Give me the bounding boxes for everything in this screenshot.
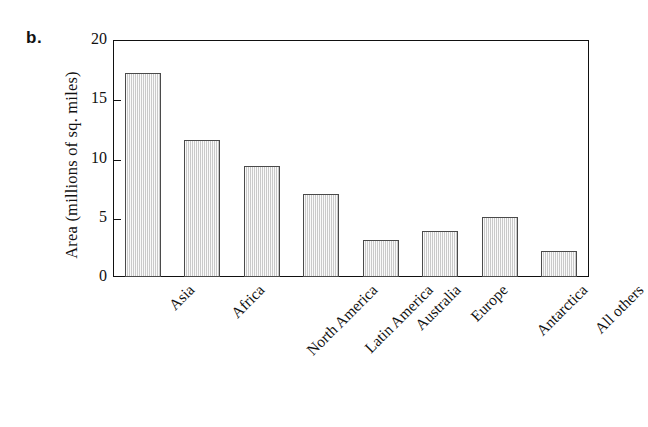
bar: [184, 140, 220, 277]
x-axis-tick-labels: AsiaAfricaNorth AmericaLatin AmericaAust…: [113, 281, 589, 421]
panel-letter-label: b.: [26, 28, 42, 48]
x-tick-label: Antarctica: [533, 281, 591, 339]
bar: [125, 73, 161, 277]
y-tick-label: 0: [67, 267, 107, 285]
y-tick-label: 15: [67, 89, 107, 107]
x-tick-label: All others: [591, 281, 647, 337]
bar: [541, 251, 577, 277]
y-axis-tick-labels: 20151050: [65, 40, 107, 277]
bar: [363, 240, 399, 277]
bar: [244, 166, 280, 277]
bar-series: [113, 40, 589, 277]
bar: [422, 231, 458, 277]
x-tick-label: Asia: [165, 281, 198, 314]
y-tick-label: 20: [67, 30, 107, 48]
y-tick-label: 5: [67, 208, 107, 226]
bar: [303, 194, 339, 277]
y-tick-label: 10: [67, 149, 107, 167]
x-tick-label: Europe: [467, 281, 511, 325]
x-tick-label: Africa: [228, 281, 269, 322]
bar: [482, 217, 518, 277]
